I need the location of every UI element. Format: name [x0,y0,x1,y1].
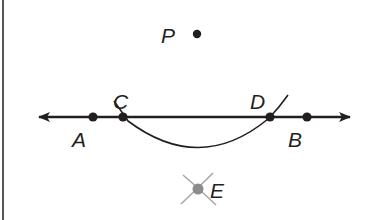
label-c: C [113,90,129,113]
label-d: D [250,90,265,113]
geometry-diagram: P A C D B E [0,0,376,220]
point-b [302,112,311,121]
label-p: P [161,24,175,47]
label-b: B [288,128,302,151]
point-a [88,112,97,121]
point-p [193,30,201,38]
point-e [193,184,204,195]
point-d [265,112,274,121]
point-c [118,112,127,121]
label-e: E [210,179,225,202]
label-a: A [70,128,86,151]
